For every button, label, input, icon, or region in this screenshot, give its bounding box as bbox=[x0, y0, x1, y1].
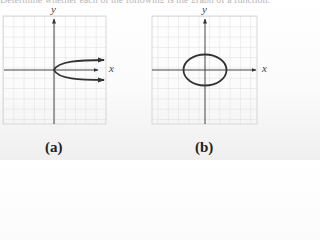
x-axis-label-b: x bbox=[262, 62, 267, 74]
caption-b: (b) bbox=[195, 139, 213, 156]
graph-b bbox=[152, 16, 257, 124]
x-axis-label-a: x bbox=[109, 62, 114, 74]
y-axis-label-b: y bbox=[202, 3, 207, 15]
figure-canvas bbox=[0, 0, 293, 160]
y-axis-label-a: y bbox=[51, 3, 56, 15]
graph-a bbox=[3, 16, 106, 124]
caption-a: (a) bbox=[45, 139, 63, 156]
